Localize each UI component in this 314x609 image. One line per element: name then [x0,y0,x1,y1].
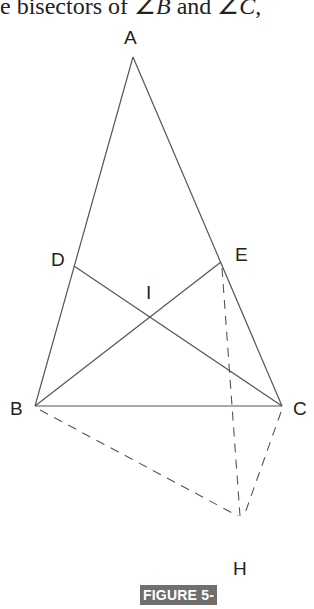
triangle-diagram: A D E I B C H [0,0,314,609]
segment-ab [35,57,133,406]
dashed-bh [40,410,238,516]
bisector-be [35,262,221,406]
bisector-cd [74,266,282,406]
label-h: H [233,558,247,579]
label-a: A [124,27,137,48]
label-i: I [146,282,151,303]
figure-label: FIGURE 5-5 [140,585,217,605]
label-c: C [293,398,307,419]
label-b: B [10,398,23,419]
label-e: E [235,244,248,265]
segment-ac [133,57,282,406]
dashed-ch [244,412,281,516]
dashed-eh [222,268,240,516]
label-d: D [51,249,65,270]
